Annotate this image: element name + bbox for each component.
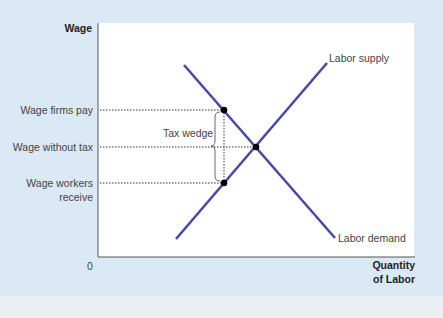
wage-workers-receive-label-2: receive — [59, 191, 93, 203]
wage-firms-pay-label: Wage firms pay — [20, 104, 93, 116]
wage-workers-receive-label-1: Wage workers — [26, 177, 93, 189]
workers-receive-point — [221, 180, 228, 187]
labor-supply-label: Labor supply — [329, 52, 389, 64]
tax-wedge-label: Tax wedge — [163, 127, 213, 139]
labor-supply-curve — [176, 63, 327, 239]
origin-label: 0 — [87, 260, 93, 272]
x-axis-label-2: of Labor — [373, 273, 415, 285]
y-axis-label: Wage — [64, 22, 92, 34]
wage-without-tax-label: Wage without tax — [13, 141, 93, 153]
firms-pay-point — [221, 107, 228, 114]
labor-demand-label: Labor demand — [338, 232, 406, 244]
x-axis-label-1: Quantity — [372, 259, 415, 271]
chart-frame: Wage Wage firms pay Wage without tax Wag… — [0, 0, 443, 318]
labor-demand-curve — [184, 65, 335, 238]
equilibrium-point — [253, 144, 260, 151]
